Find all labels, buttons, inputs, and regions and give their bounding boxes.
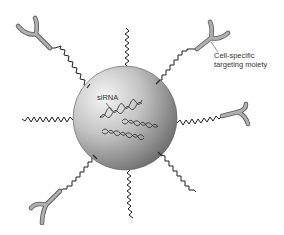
peg-chain-right	[177, 116, 222, 125]
targeting-moiety-label-line1: Cell-specific	[214, 51, 254, 60]
antibody-lower-left	[31, 191, 60, 223]
peg-chain-left	[22, 117, 73, 122]
targeting-moiety-label-line2: targeting moiety	[214, 60, 267, 69]
antibody-right	[222, 104, 248, 124]
peg-chain-upper-left	[50, 46, 89, 86]
antibody-upper-left	[18, 18, 50, 48]
sirna-label: siRNA	[97, 93, 118, 102]
peg-chain-top	[125, 28, 129, 67]
peg-chain-upper-right	[158, 49, 197, 80]
nanoparticle-sphere	[73, 66, 177, 170]
peg-chain-lower-right	[161, 155, 196, 192]
nanoparticle-diagram	[0, 0, 284, 235]
antibody-upper-right	[197, 22, 228, 49]
peg-chain-bottom	[127, 170, 133, 218]
peg-chain-lower-left	[60, 157, 95, 191]
